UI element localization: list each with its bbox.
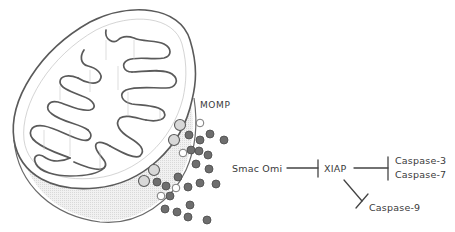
dark-protein-dot — [184, 183, 192, 191]
membrane-pore — [175, 120, 186, 131]
membrane-pore — [149, 165, 160, 176]
light-protein-dot — [157, 192, 165, 200]
dark-protein-dot — [203, 216, 211, 224]
dark-protein-dot — [196, 179, 204, 187]
dark-protein-dot — [174, 173, 182, 181]
membrane-pore — [169, 135, 180, 146]
dark-protein-dot — [162, 182, 170, 190]
light-protein-dot — [179, 149, 187, 157]
membrane-pore — [139, 176, 150, 187]
dark-protein-dot — [212, 180, 220, 188]
dark-protein-dot — [196, 136, 204, 144]
dark-protein-dot — [205, 165, 213, 173]
dark-protein-dot — [185, 131, 193, 139]
label-xiap: XIAP — [324, 164, 346, 174]
light-protein-dot — [196, 119, 204, 127]
dark-protein-dot — [186, 201, 194, 209]
label-caspase-3: Caspase-3 — [395, 156, 446, 166]
dark-protein-dot — [220, 136, 228, 144]
dark-protein-dot — [204, 151, 212, 159]
apoptosis-diagram: MOMP Smac Omi XIAP Caspase-3 Caspase-7 C… — [0, 0, 455, 232]
dark-protein-dot — [206, 130, 214, 138]
dark-protein-dot — [184, 213, 192, 221]
edge-xiap-caspase9 — [344, 180, 362, 201]
dark-protein-dot — [173, 208, 181, 216]
label-caspase-9: Caspase-9 — [369, 203, 420, 213]
dark-protein-dot — [153, 178, 161, 186]
label-caspase-7: Caspase-7 — [395, 170, 446, 180]
label-smac-omi: Smac Omi — [232, 164, 282, 174]
dark-protein-dot — [166, 192, 174, 200]
mitochondrion — [13, 10, 196, 223]
dark-protein-dot — [195, 147, 203, 155]
dark-protein-dot — [187, 146, 195, 154]
light-protein-dot — [172, 184, 180, 192]
label-momp: MOMP — [200, 101, 230, 110]
dark-protein-dot — [161, 205, 169, 213]
dark-protein-dot — [192, 160, 200, 168]
